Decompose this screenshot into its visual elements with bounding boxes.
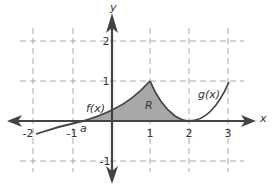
x-tick-label: 3 xyxy=(225,127,232,140)
region-r-label: R xyxy=(145,99,153,112)
x-tick-label: 2 xyxy=(186,127,193,140)
g-label: g(x) xyxy=(198,88,220,101)
point-a-label: a xyxy=(80,122,87,135)
x-tick-label: -2 xyxy=(23,127,34,140)
coordinate-graph: -2 -1 1 2 3 2 1 -1 x y f(x) g(x) R a xyxy=(0,0,272,189)
x-tick-label: -1 xyxy=(67,127,78,140)
y-tick-label: 1 xyxy=(103,75,110,88)
f-label: f(x) xyxy=(86,102,105,115)
y-axis-label: y xyxy=(109,1,117,14)
x-tick-label: 1 xyxy=(147,127,154,140)
x-axis-label: x xyxy=(259,112,267,125)
y-tick-label: 2 xyxy=(103,35,110,48)
y-tick-label: -1 xyxy=(100,155,111,168)
